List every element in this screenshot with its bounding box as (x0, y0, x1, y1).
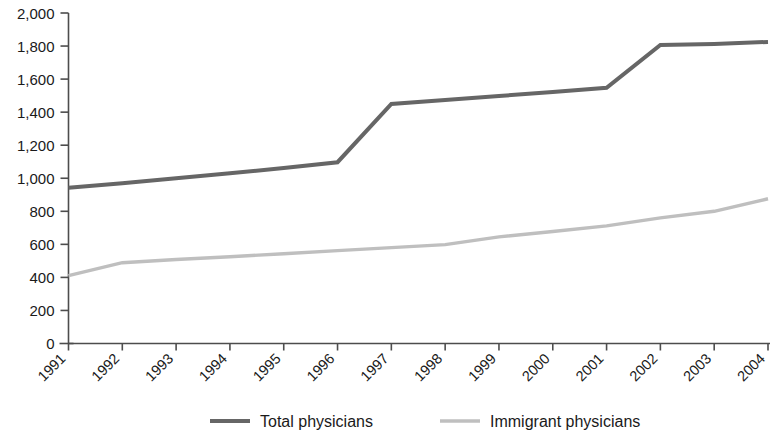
y-tick-label: 1,800 (17, 38, 55, 55)
x-tick-label: 1992 (88, 350, 122, 384)
x-tick-label: 1997 (357, 350, 391, 384)
x-tick-label: 2002 (626, 350, 660, 384)
y-tick-label: 800 (29, 203, 54, 220)
y-tick-label: 1,600 (17, 71, 55, 88)
x-tick-label: 1996 (304, 350, 338, 384)
x-tick-label: 2004 (734, 350, 768, 384)
y-tick-label: 1,400 (17, 104, 55, 121)
series-line-1 (69, 42, 769, 188)
x-tick-label: 1994 (196, 350, 230, 384)
y-tick-label: 0 (46, 335, 54, 352)
x-axis-tick-labels: 1991199219931994199519961997199819992000… (34, 350, 768, 384)
legend-label-2: Immigrant physicians (490, 413, 640, 430)
x-tick-label: 1993 (142, 350, 176, 384)
y-tick-label: 2,000 (17, 5, 55, 22)
x-tick-label: 2001 (573, 350, 607, 384)
line-chart: 02004006008001,0001,2001,4001,6001,8002,… (0, 0, 783, 442)
chart-canvas: 02004006008001,0001,2001,4001,6001,8002,… (0, 0, 783, 442)
chart-legend: Total physiciansImmigrant physicians (210, 413, 640, 430)
y-axis-tick-labels: 02004006008001,0001,2001,4001,6001,8002,… (17, 5, 55, 353)
x-tick-label: 2003 (680, 350, 714, 384)
x-tick-label: 1991 (34, 350, 68, 384)
series-line-2 (69, 199, 769, 276)
y-tick-label: 400 (29, 269, 54, 286)
data-series-group (69, 42, 769, 276)
x-tick-label: 1999 (465, 350, 499, 384)
y-tick-label: 600 (29, 236, 54, 253)
x-tick-label: 1998 (411, 350, 445, 384)
y-tick-label: 200 (29, 302, 54, 319)
y-tick-label: 1,000 (17, 170, 55, 187)
y-tick-label: 1,200 (17, 137, 55, 154)
x-tick-label: 2000 (519, 350, 553, 384)
legend-label-1: Total physicians (260, 413, 373, 430)
x-axis-ticks (69, 344, 769, 351)
x-tick-label: 1995 (250, 350, 284, 384)
y-axis-ticks (60, 13, 74, 344)
